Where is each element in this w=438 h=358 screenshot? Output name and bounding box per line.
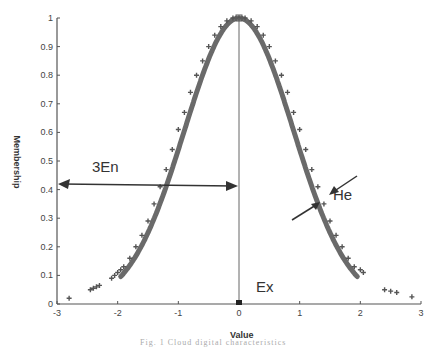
x-tick-label: -1 xyxy=(174,308,182,318)
figure-caption: Fig. 1 Cloud digital characteristics xyxy=(140,338,286,347)
x-tick-label: 1 xyxy=(297,308,302,318)
y-tick-label: 0 xyxy=(48,299,53,309)
y-tick-label: 0.8 xyxy=(40,70,53,80)
y-tick-label: 0.7 xyxy=(40,99,53,109)
y-tick-label: 0.5 xyxy=(40,156,53,166)
y-tick-label: 0.9 xyxy=(40,42,53,52)
he-label: He xyxy=(333,186,352,203)
ex-label: Ex xyxy=(256,278,274,295)
x-tick-label: -2 xyxy=(114,308,122,318)
x-tick-label: 2 xyxy=(358,308,363,318)
x-tick-label: -3 xyxy=(53,308,61,318)
y-tick-label: 0.4 xyxy=(40,185,53,195)
membership-chart: -3-2-1012300.10.20.30.40.50.60.70.80.91 … xyxy=(0,0,438,358)
en-label: 3En xyxy=(92,158,119,175)
x-tick-label: 3 xyxy=(418,308,423,318)
ex-base-marker xyxy=(236,300,242,305)
y-tick-label: 1 xyxy=(48,13,53,23)
x-tick-label: 0 xyxy=(236,308,241,318)
en-arrow xyxy=(58,179,238,191)
y-tick-label: 0.2 xyxy=(40,242,53,252)
y-tick-label: 0.3 xyxy=(40,213,53,223)
y-axis-label: Membership xyxy=(12,135,22,189)
y-tick-label: 0.6 xyxy=(40,127,53,137)
cloud-drops xyxy=(67,16,415,301)
y-tick-label: 0.1 xyxy=(40,270,53,280)
